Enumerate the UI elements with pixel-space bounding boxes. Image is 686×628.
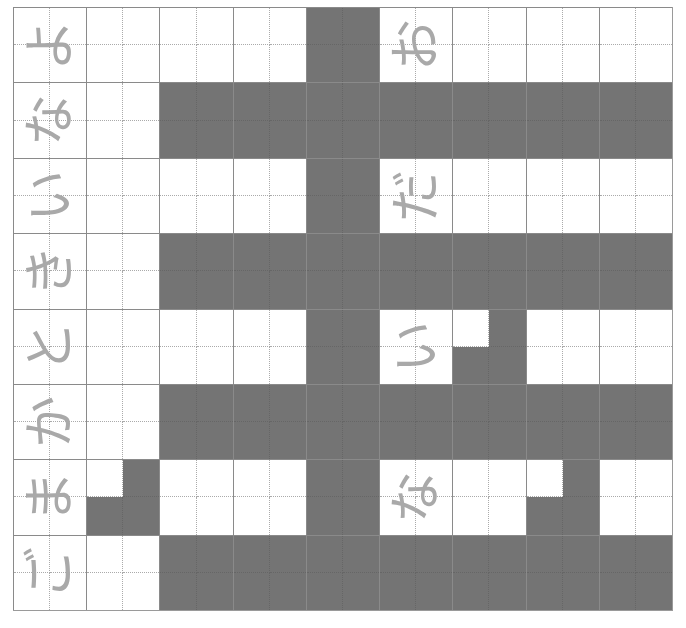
filled-cell[interactable] (233, 233, 306, 308)
empty-cell[interactable] (86, 535, 159, 610)
glyph-cell[interactable]: お (379, 7, 452, 82)
glyph-cell[interactable]: い (13, 158, 86, 233)
glyph-cell[interactable]: ま (13, 459, 86, 534)
filled-cell[interactable] (452, 535, 525, 610)
glyph-cell[interactable]: よ (13, 7, 86, 82)
empty-cell[interactable] (159, 7, 232, 82)
glyph-cell[interactable]: な (379, 459, 452, 534)
filled-cell[interactable] (306, 7, 379, 82)
partial-cell[interactable] (526, 459, 599, 534)
empty-cell[interactable] (159, 309, 232, 384)
partial-cell[interactable] (86, 459, 159, 534)
cell-quadrant-bl (160, 271, 196, 308)
partial-cell[interactable] (452, 309, 525, 384)
filled-cell[interactable] (159, 384, 232, 459)
filled-cell[interactable] (233, 384, 306, 459)
glyph-cell[interactable]: か (13, 384, 86, 459)
filled-cell[interactable] (526, 82, 599, 157)
filled-cell[interactable] (306, 459, 379, 534)
cell-quadrant-tr (123, 8, 159, 45)
empty-cell[interactable] (452, 158, 525, 233)
empty-cell[interactable] (233, 158, 306, 233)
empty-cell[interactable] (599, 7, 672, 82)
empty-cell[interactable] (599, 158, 672, 233)
empty-cell[interactable] (526, 309, 599, 384)
cell-quadrant-bl (160, 422, 196, 459)
filled-cell[interactable] (452, 82, 525, 157)
glyph-cell[interactable]: な (13, 82, 86, 157)
cell-quadrant-tr (50, 385, 86, 422)
filled-cell[interactable] (306, 158, 379, 233)
empty-cell[interactable] (159, 459, 232, 534)
filled-cell[interactable] (159, 535, 232, 610)
filled-cell[interactable] (306, 535, 379, 610)
empty-cell[interactable] (159, 158, 232, 233)
cell-quadrant-tl (307, 159, 343, 196)
filled-cell[interactable] (233, 82, 306, 157)
filled-cell[interactable] (379, 233, 452, 308)
filled-cell[interactable] (526, 384, 599, 459)
cell-quadrant-tr (123, 460, 159, 497)
empty-cell[interactable] (233, 7, 306, 82)
filled-cell[interactable] (159, 233, 232, 308)
glyph-cell[interactable]: い (379, 309, 452, 384)
cell-quadrant-br (50, 121, 86, 158)
empty-cell[interactable] (86, 233, 159, 308)
empty-cell[interactable] (526, 158, 599, 233)
filled-cell[interactable] (233, 535, 306, 610)
empty-cell[interactable] (452, 7, 525, 82)
cell-quadrant-tr (50, 8, 86, 45)
empty-cell[interactable] (233, 309, 306, 384)
filled-cell[interactable] (379, 384, 452, 459)
filled-cell[interactable] (379, 82, 452, 157)
cell-quadrant-tl (14, 83, 50, 120)
empty-cell[interactable] (526, 7, 599, 82)
filled-cell[interactable] (306, 233, 379, 308)
filled-cell[interactable] (452, 384, 525, 459)
empty-cell[interactable] (599, 309, 672, 384)
glyph-cell[interactable]: と (13, 309, 86, 384)
cell-quadrant-br (563, 422, 599, 459)
empty-cell[interactable] (86, 309, 159, 384)
filled-cell[interactable] (526, 233, 599, 308)
cell-quadrant-bl (87, 196, 123, 233)
filled-cell[interactable] (379, 535, 452, 610)
cell-quadrant-bl (14, 422, 50, 459)
filled-cell[interactable] (159, 82, 232, 157)
cell-quadrant-bl (87, 497, 123, 534)
filled-cell[interactable] (306, 82, 379, 157)
cell-quadrant-tr (416, 234, 452, 271)
filled-cell[interactable] (599, 535, 672, 610)
empty-cell[interactable] (86, 158, 159, 233)
filled-cell[interactable] (452, 233, 525, 308)
cell-quadrant-tr (123, 310, 159, 347)
cell-quadrant-tl (87, 460, 123, 497)
cell-quadrant-tr (636, 159, 672, 196)
cell-quadrant-tr (563, 385, 599, 422)
empty-cell[interactable] (599, 459, 672, 534)
cell-quadrant-tl (14, 234, 50, 271)
cell-quadrant-tr (489, 460, 525, 497)
cell-quadrant-br (489, 271, 525, 308)
filled-cell[interactable] (306, 384, 379, 459)
filled-cell[interactable] (526, 535, 599, 610)
cell-quadrant-br (489, 121, 525, 158)
cell-quadrant-tl (527, 83, 563, 120)
glyph-cell[interactable]: だ (379, 158, 452, 233)
empty-cell[interactable] (86, 82, 159, 157)
glyph-cell[interactable]: き (13, 233, 86, 308)
cell-quadrant-br (123, 271, 159, 308)
cell-quadrant-tl (527, 8, 563, 45)
empty-cell[interactable] (86, 7, 159, 82)
empty-cell[interactable] (452, 459, 525, 534)
empty-cell[interactable] (86, 384, 159, 459)
filled-cell[interactable] (306, 309, 379, 384)
cell-quadrant-tr (489, 8, 525, 45)
cell-quadrant-br (197, 347, 233, 384)
filled-cell[interactable] (599, 384, 672, 459)
empty-cell[interactable] (233, 459, 306, 534)
cell-quadrant-tr (123, 159, 159, 196)
filled-cell[interactable] (599, 82, 672, 157)
filled-cell[interactable] (599, 233, 672, 308)
glyph-cell[interactable]: ご (13, 535, 86, 610)
